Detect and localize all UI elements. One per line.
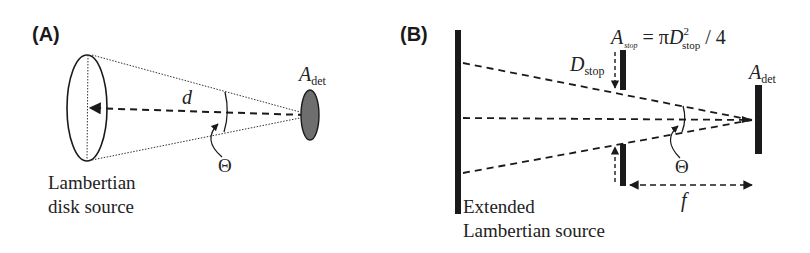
angle-arc [224,92,227,132]
panel-b: (B) Θ f Astop= πD2stop/ 4 Dstop Adet Ext… [400,23,777,241]
ray-convergence-arrow [742,116,752,123]
panel-b-label: (B) [400,23,428,45]
source-label-line2: disk source [48,196,134,217]
ray-upper [463,63,752,120]
extended-source-label-line1: Extended [463,196,535,217]
detector-label-a: Adet [297,63,327,88]
distance-label-d: d [182,86,193,108]
detector-label-b: Adet [747,61,777,86]
extended-source-bar [455,30,461,214]
aperture-stop-upper [620,50,626,90]
panel-a-label: (A) [32,23,60,45]
detector-a [301,90,319,140]
panel-a: (A) d Θ Adet Lambertian disk source [32,23,327,217]
angle-label-theta: Θ [218,155,232,176]
aperture-stop-lower [620,144,626,186]
distance-arrow [90,108,305,115]
disk-diameter-line [87,55,88,161]
angle-pointer-b [670,126,680,158]
angle-pointer [211,124,222,157]
stop-diameter-label: Dstop [569,53,604,78]
source-label-line1: Lambertian [48,172,136,193]
stop-area-equation: Astop= πD2stop/ 4 [609,25,726,51]
ray-lower [463,120,752,173]
detector-bar-b [755,85,762,154]
cone-lower-edge [92,118,300,160]
extended-source-label-line2: Lambertian source [463,220,605,241]
cone-upper-edge [92,55,300,112]
optics-diagram: (A) d Θ Adet Lambertian disk source (B) [0,0,810,253]
ray-center [463,118,752,120]
angle-label-theta-b: Θ [675,156,689,177]
focal-label-f: f [681,189,689,212]
